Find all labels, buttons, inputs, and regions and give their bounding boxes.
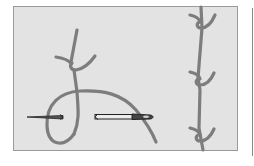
knot-2 [190, 72, 214, 85]
needle-right-icon [95, 114, 153, 120]
knot-right-arm [71, 56, 95, 70]
knot-left-arm [56, 57, 71, 63]
stitch-line-right [190, 7, 215, 150]
thread-upper [71, 30, 77, 62]
stitch-illustration [0, 0, 254, 166]
needle-left-icon [27, 115, 63, 120]
thread-down [74, 70, 78, 134]
